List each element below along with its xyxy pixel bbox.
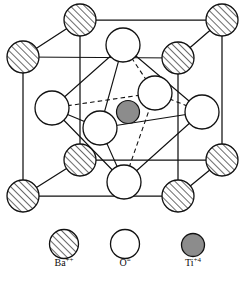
figure-canvas: Ba++ O= Ti+4 (0, 0, 244, 282)
oxygen-atom (35, 91, 69, 125)
titanium-atom (117, 101, 140, 124)
legend-label-titanium: Ti+4 (163, 257, 223, 268)
oxygen-atom (138, 76, 172, 110)
legend-swatch-o (111, 230, 140, 259)
oxygen-atom (106, 28, 140, 62)
legend-swatches (50, 230, 205, 259)
legend-charge-o: = (127, 256, 131, 264)
legend-swatch-ti (182, 234, 205, 257)
oxygen-atom (83, 111, 117, 145)
legend-label-oxygen: O= (95, 257, 155, 268)
legend-label-barium: Ba++ (34, 257, 94, 268)
legend-symbol-o: O (119, 257, 126, 268)
oxygen-atom (185, 95, 219, 129)
legend-charge-ba: ++ (66, 256, 74, 264)
titanium-atom (117, 101, 140, 124)
legend-symbol-ba: Ba (54, 257, 65, 268)
legend-charge-ti: +4 (194, 256, 201, 264)
legend-symbol-ti: Ti (185, 257, 194, 268)
oxygen-atom (107, 165, 141, 199)
cell-edge (23, 57, 178, 58)
crystal-structure-svg (0, 0, 244, 282)
